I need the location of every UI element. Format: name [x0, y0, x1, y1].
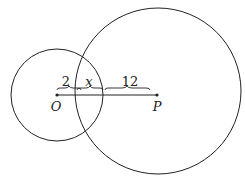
label-x: x: [85, 74, 93, 89]
point-o: [55, 93, 58, 96]
label-2: 2: [62, 74, 70, 89]
label-p: P: [152, 99, 162, 114]
label-12: 12: [122, 74, 139, 89]
circles-diagram: 2 x 12 O P: [0, 0, 245, 191]
large-circle: [75, 8, 241, 174]
label-o: O: [51, 99, 62, 114]
point-p: [155, 93, 158, 96]
